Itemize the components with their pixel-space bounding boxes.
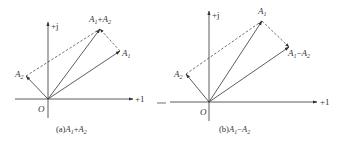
dashed-A1-to-diff bbox=[262, 21, 289, 47]
label-A1: A1 bbox=[121, 48, 131, 59]
vector-A2 bbox=[186, 74, 209, 102]
origin-label: O bbox=[38, 104, 45, 114]
vector-A1-plus-A2 bbox=[48, 29, 100, 99]
label-A1: A1 bbox=[257, 6, 267, 17]
vector-A1 bbox=[209, 21, 262, 102]
diagram-a: +j +1 O A1 A2 A1+A2 (a)A1+A2 bbox=[14, 14, 145, 135]
label-A2: A2 bbox=[14, 69, 24, 80]
origin-label: O bbox=[200, 107, 207, 117]
real-axis-label: +1 bbox=[135, 94, 145, 104]
vector-A1-minus-A2 bbox=[209, 47, 289, 102]
label-A1-plus-A2: A1+A2 bbox=[88, 14, 111, 25]
diagram-b: +j +1 O A1 A2 A1−A2 (b)A1−A2 bbox=[170, 6, 330, 135]
vector-A2 bbox=[26, 76, 48, 99]
dashed-A2-to-A1 bbox=[186, 21, 262, 74]
label-A1-minus-A2: A1−A2 bbox=[287, 48, 310, 59]
imag-axis-label: +j bbox=[51, 21, 59, 31]
caption-b: (b)A1−A2 bbox=[219, 124, 250, 135]
imag-axis-label: +j bbox=[212, 10, 220, 20]
dashed-A2-to-sum bbox=[26, 29, 100, 76]
dashed-A1-to-sum bbox=[100, 29, 120, 51]
caption-a: (a)A1+A2 bbox=[56, 124, 87, 135]
phasor-diagrams: +j +1 O A1 A2 A1+A2 (a)A1+A2 +j +1 O bbox=[0, 0, 340, 150]
vector-A1 bbox=[48, 51, 120, 99]
real-axis-label: +1 bbox=[320, 97, 330, 107]
label-A2: A2 bbox=[173, 69, 183, 80]
